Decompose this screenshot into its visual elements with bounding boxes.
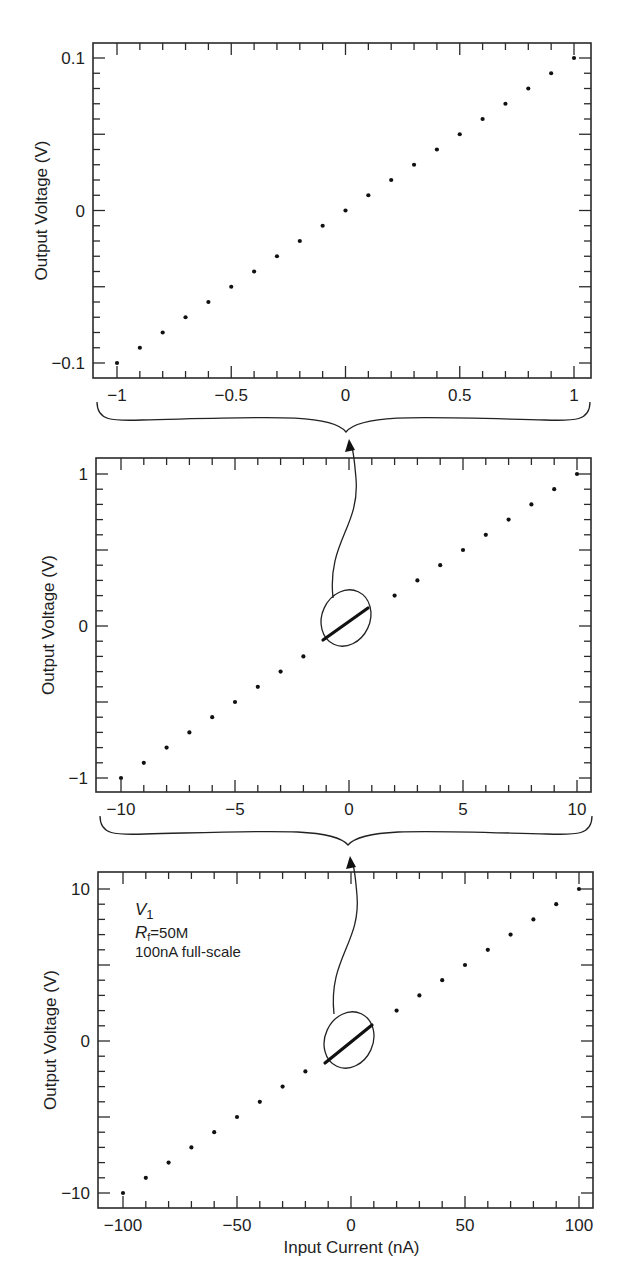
x-tick-label: 0 bbox=[346, 1216, 355, 1235]
data-point bbox=[235, 1115, 239, 1119]
data-point bbox=[301, 654, 305, 658]
data-point bbox=[412, 163, 416, 167]
data-point bbox=[572, 56, 576, 60]
data-point bbox=[165, 746, 169, 750]
curly-brace bbox=[97, 402, 590, 432]
data-point bbox=[212, 1130, 216, 1134]
data-point bbox=[389, 178, 393, 182]
data-point bbox=[507, 518, 511, 522]
x-tick-label: −50 bbox=[223, 1216, 252, 1235]
data-point bbox=[463, 963, 467, 967]
data-point bbox=[575, 472, 579, 476]
data-point bbox=[321, 224, 325, 228]
data-point bbox=[256, 685, 260, 689]
y-tick-label: 0 bbox=[79, 617, 88, 636]
data-point bbox=[142, 761, 146, 765]
y-axis-title: Output Voltage (V) bbox=[32, 141, 51, 281]
arrow-head-icon bbox=[346, 856, 356, 869]
x-tick-label: 1 bbox=[569, 386, 578, 405]
x-tick-label: 10 bbox=[568, 800, 587, 819]
data-point bbox=[144, 1176, 148, 1180]
data-point bbox=[281, 1085, 285, 1089]
y-tick-label: −10 bbox=[61, 1184, 90, 1203]
annotation-block: V1 Rf=50M 100nA full-scale bbox=[135, 900, 241, 960]
annotation-rf: Rf=50M bbox=[135, 923, 188, 943]
arrow-line bbox=[333, 864, 357, 1014]
figure-canvas: −1−0.500.51−0.100.1Output Voltage (V)−10… bbox=[0, 0, 633, 1283]
data-point bbox=[417, 993, 421, 997]
x-tick-label: 100 bbox=[565, 1216, 593, 1235]
data-point bbox=[279, 670, 283, 674]
data-point bbox=[366, 193, 370, 197]
x-tick-label: 50 bbox=[456, 1216, 475, 1235]
y-tick-label: 1 bbox=[79, 465, 88, 484]
panel-middle: −10−50510−101Output Voltage (V) bbox=[39, 458, 591, 819]
y-tick-label: −0.1 bbox=[51, 354, 85, 373]
annotation-fullscale: 100nA full-scale bbox=[135, 943, 241, 960]
data-point bbox=[484, 533, 488, 537]
data-point bbox=[552, 487, 556, 491]
data-point bbox=[161, 330, 165, 334]
data-point bbox=[252, 269, 256, 273]
data-point bbox=[258, 1100, 262, 1104]
x-tick-label: 0 bbox=[344, 800, 353, 819]
x-tick-label: −1 bbox=[107, 386, 126, 405]
data-point bbox=[438, 563, 442, 567]
data-point bbox=[115, 361, 119, 365]
data-point bbox=[503, 102, 507, 106]
panel-bottom: −100−50050100−10010Output Voltage (V)Inp… bbox=[41, 872, 593, 1257]
data-point bbox=[206, 300, 210, 304]
data-point bbox=[121, 1191, 125, 1195]
x-tick-label: 0 bbox=[341, 386, 350, 405]
data-point bbox=[486, 948, 490, 952]
data-point bbox=[189, 1145, 193, 1149]
y-tick-label: 0 bbox=[76, 202, 85, 221]
data-point bbox=[549, 71, 553, 75]
zoom-links bbox=[97, 402, 592, 1076]
arrow-head-icon bbox=[345, 439, 355, 452]
data-point bbox=[167, 1161, 171, 1165]
data-point bbox=[481, 117, 485, 121]
y-axis-title: Output Voltage (V) bbox=[41, 970, 60, 1110]
zoom-ellipse bbox=[315, 1004, 383, 1077]
data-point bbox=[458, 132, 462, 136]
annotation-v1: V1 bbox=[135, 900, 154, 922]
x-tick-label: −5 bbox=[225, 800, 244, 819]
data-point bbox=[461, 548, 465, 552]
chart-panels: −1−0.500.51−0.100.1Output Voltage (V)−10… bbox=[32, 43, 593, 1257]
data-point bbox=[119, 776, 123, 780]
zoomed-data-segment bbox=[325, 1025, 372, 1063]
data-point bbox=[531, 917, 535, 921]
data-point bbox=[183, 315, 187, 319]
data-point bbox=[415, 578, 419, 582]
data-point bbox=[554, 902, 558, 906]
y-tick-label: −1 bbox=[69, 769, 88, 788]
y-tick-label: 10 bbox=[71, 880, 90, 899]
y-tick-label: 0 bbox=[81, 1032, 90, 1051]
data-point bbox=[343, 208, 347, 212]
data-point bbox=[577, 887, 581, 891]
x-tick-label: −100 bbox=[104, 1216, 142, 1235]
zoom-ellipse bbox=[312, 582, 380, 655]
data-point bbox=[440, 978, 444, 982]
x-tick-label: 5 bbox=[458, 800, 467, 819]
data-point bbox=[210, 715, 214, 719]
zoom-link bbox=[97, 402, 590, 654]
x-axis-title: Input Current (nA) bbox=[283, 1238, 419, 1257]
y-axis-title: Output Voltage (V) bbox=[39, 555, 58, 695]
data-point bbox=[187, 730, 191, 734]
x-tick-label: −10 bbox=[107, 800, 136, 819]
data-point bbox=[229, 285, 233, 289]
panel-top: −1−0.500.51−0.100.1Output Voltage (V) bbox=[32, 43, 591, 405]
plot-frame bbox=[93, 43, 591, 378]
data-point bbox=[529, 502, 533, 506]
data-point bbox=[138, 346, 142, 350]
zoomed-data-segment bbox=[323, 608, 368, 640]
curly-brace bbox=[100, 816, 592, 845]
data-point bbox=[526, 86, 530, 90]
data-point bbox=[298, 239, 302, 243]
y-tick-label: 0.1 bbox=[61, 49, 85, 68]
data-point bbox=[303, 1069, 307, 1073]
data-point bbox=[233, 700, 237, 704]
data-point bbox=[435, 147, 439, 151]
